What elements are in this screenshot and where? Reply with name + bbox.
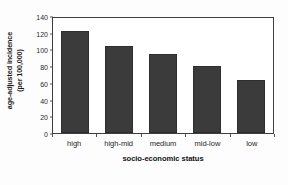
y-axis-title: age-adjusted incidence (per 100,000): [2, 0, 28, 140]
bar: [61, 31, 89, 133]
x-axis-tick-mark: [96, 134, 97, 137]
x-axis-tick-label: high-mid: [96, 139, 140, 151]
x-axis-tick-mark: [141, 134, 142, 137]
x-axis-tick-mark: [230, 134, 231, 137]
bar: [149, 54, 177, 133]
bar: [237, 80, 265, 133]
bar-slot: [141, 18, 185, 133]
bar-slot: [229, 18, 273, 133]
bar-slot: [185, 18, 229, 133]
bar-slot: [53, 18, 97, 133]
x-axis-tick-label: high: [52, 139, 96, 151]
x-axis-tick-label: medium: [141, 139, 185, 151]
plot-area: [52, 17, 274, 134]
y-axis-tick-label: 60: [40, 80, 48, 87]
y-axis-tick-label: 100: [36, 47, 48, 54]
y-axis-tick-label: 80: [40, 64, 48, 71]
bar-slot: [97, 18, 141, 133]
x-axis-title: socio-economic status: [52, 154, 274, 163]
x-axis-tick-marks: [52, 134, 274, 138]
bar: [105, 46, 133, 133]
bar-chart-figure: age-adjusted incidence (per 100,000) 020…: [0, 0, 288, 185]
x-axis-tick-labels: highhigh-midmediummid-lowlow: [52, 139, 274, 151]
y-axis-tick-label: 140: [36, 14, 48, 21]
x-axis-tick-mark: [52, 134, 53, 137]
x-axis-tick-mark: [274, 134, 275, 137]
x-axis-tick-label: mid-low: [185, 139, 229, 151]
bars-layer: [53, 18, 273, 133]
y-axis-title-line1: age-adjusted incidence: [6, 31, 16, 108]
y-axis-tick-label: 40: [40, 97, 48, 104]
bar: [193, 66, 221, 133]
y-axis-tick-label: 120: [36, 30, 48, 37]
y-axis-title-line2: (per 100,000): [15, 31, 25, 108]
x-axis-tick-mark: [185, 134, 186, 137]
x-axis-tick-label: low: [230, 139, 274, 151]
y-axis-tick-label: 20: [40, 114, 48, 121]
